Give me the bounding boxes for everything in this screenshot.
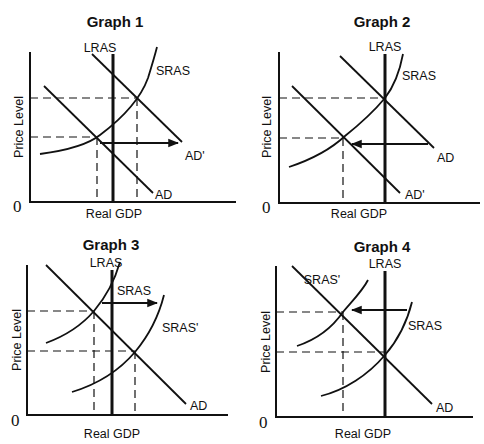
origin-label: 0 (262, 198, 271, 217)
sras-curve (321, 302, 412, 396)
origin-label: 0 (13, 197, 22, 216)
sras-shifted-curve (297, 280, 368, 346)
ad-label: AD (155, 188, 172, 202)
graph-title: Graph 2 (354, 13, 411, 30)
ad-shifted-label: AD' (405, 188, 425, 202)
graph-title: Graph 1 (87, 13, 144, 30)
sras-shifted-label: SRAS' (304, 273, 340, 287)
axes (30, 52, 236, 202)
sras-shifted-label: SRAS' (162, 321, 198, 335)
sras-label: SRAS (156, 64, 190, 78)
ad-label: AD (190, 399, 207, 413)
x-axis-label: Real GDP (84, 427, 140, 441)
y-axis-label: Price Level (260, 96, 274, 158)
sras-label: SRAS (408, 319, 442, 333)
graph-title: Graph 4 (354, 238, 411, 255)
x-axis-label: Real GDP (86, 207, 142, 221)
lras-label: LRAS (369, 40, 402, 54)
origin-label: 0 (11, 411, 20, 430)
x-axis-label: Real GDP (335, 427, 391, 441)
y-axis-label: Price Level (10, 309, 24, 371)
graph-1: Graph 1 0 Real GDP Price Level LRAS SRAS… (12, 13, 236, 221)
lras-label: LRAS (84, 41, 117, 55)
ad-as-diagram-grid: Graph 1 0 Real GDP Price Level LRAS SRAS… (0, 0, 484, 444)
ad-label: AD (437, 151, 454, 165)
graph-2: Graph 2 0 Real GDP Price Level LRAS SRAS… (260, 13, 480, 221)
ad-line (292, 266, 432, 404)
axes (279, 52, 480, 203)
sras-shifted-curve (72, 295, 164, 392)
y-axis-label: Price Level (259, 311, 273, 373)
graph-title: Graph 3 (83, 236, 140, 253)
origin-label: 0 (259, 413, 268, 432)
sras-label: SRAS (402, 69, 436, 83)
ad-label: AD (436, 401, 453, 415)
lras-label: LRAS (369, 257, 402, 271)
sras-label: SRAS (117, 284, 151, 298)
x-axis-label: Real GDP (331, 207, 387, 221)
axes (276, 266, 473, 417)
ad-shifted-label: AD' (185, 149, 205, 163)
equilibrium-guides (27, 311, 135, 415)
y-axis-label: Price Level (12, 96, 26, 158)
graph-3: Graph 3 0 Real GDP Price Level LRAS SRAS… (10, 236, 228, 441)
graph-4: Graph 4 0 Real GDP Price Level LRAS SRAS… (259, 238, 473, 441)
equilibrium-guides (30, 98, 137, 202)
